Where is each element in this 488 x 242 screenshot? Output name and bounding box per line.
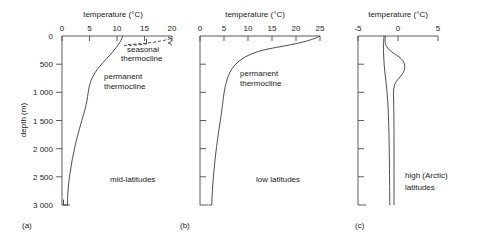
panel-a-temp-label-10: 10 [113, 24, 122, 33]
panel-c-region-label-line2: latitudes [405, 183, 435, 192]
panel-a-depth-label-2000: 2 000 [33, 145, 54, 154]
panel-b-temp-label-5: 5 [222, 24, 227, 33]
panel-a-temp-label-0: 0 [60, 24, 65, 33]
panel-b-temp-label-15: 15 [268, 24, 277, 33]
panel-c: temperature (°C) -5 0 5 high (Arctic) la… [335, 0, 488, 242]
panel-a-temp-label-20: 20 [168, 24, 177, 33]
panel-a-plot: temperature (°C) 0 5 10 15 20 0 500 [0, 0, 180, 242]
panel-a-curve-bottom-hook [64, 200, 68, 206]
panel-b-temp-label-20: 20 [292, 24, 301, 33]
panel-b-permanent-thermocline-label-line1: permanent [240, 69, 279, 78]
temperature-depth-profile-figure: temperature (°C) 0 5 10 15 20 0 500 [0, 0, 488, 242]
panel-b: temperature (°C) 0 5 10 15 20 25 [180, 0, 335, 242]
panel-c-region-label-line1: high (Arctic) [405, 171, 448, 180]
panel-a-depth-label-500: 500 [40, 60, 54, 69]
panel-b-temp-label-25: 25 [316, 24, 325, 33]
panel-b-axis-title: temperature (°C) [225, 10, 285, 19]
panel-b-permanent-thermocline-label-line2: thermocline [240, 79, 282, 88]
panel-c-temperature-curve-variant [384, 36, 390, 205]
panel-a-depth-label-0: 0 [49, 32, 54, 41]
panel-a-seasonal-thermocline-label-line2: thermocline [121, 54, 163, 63]
panel-b-caption: (b) [180, 221, 190, 230]
panel-a-temp-label-5: 5 [87, 24, 92, 33]
panel-a-axis-title: temperature (°C) [83, 10, 143, 19]
panel-a-depth-label-2500: 2 500 [33, 173, 54, 182]
panel-c-temperature-curve-inversion [385, 36, 405, 205]
panel-c-axis-title: temperature (°C) [368, 10, 428, 19]
panel-c-temp-label-minus5: -5 [354, 24, 362, 33]
panel-b-plot: temperature (°C) 0 5 10 15 20 25 [180, 0, 335, 242]
panel-a-depth-label-1500: 1 500 [33, 117, 54, 126]
panel-b-temp-label-10: 10 [244, 24, 253, 33]
panel-a-seasonal-curve-summer [128, 39, 171, 45]
panel-a-depth-label-3000: 3 000 [33, 201, 54, 210]
panel-c-temp-label-0: 0 [396, 24, 401, 33]
panel-a-caption: (a) [22, 221, 32, 230]
panel-c-caption: (c) [355, 221, 365, 230]
panel-c-plot: temperature (°C) -5 0 5 high (Arctic) la… [335, 0, 488, 242]
panel-a-permanent-thermocline-label-line2: thermocline [104, 82, 146, 91]
panel-a-region-label: mid-latitudes [110, 175, 155, 184]
panel-a-seasonal-thermocline-label-line1: seasonal [127, 45, 159, 54]
panel-c-temp-label-5: 5 [436, 24, 441, 33]
panel-a-depth-label-1000: 1 000 [33, 88, 54, 97]
panel-b-temp-label-0: 0 [198, 24, 203, 33]
panel-a-depth-axis-title: depth (m) [19, 103, 28, 138]
panel-a-temp-label-15: 15 [140, 24, 149, 33]
panel-a: temperature (°C) 0 5 10 15 20 0 500 [0, 0, 180, 242]
panel-b-region-label: low latitudes [256, 175, 300, 184]
panel-a-permanent-thermocline-label-line1: permanent [104, 72, 143, 81]
